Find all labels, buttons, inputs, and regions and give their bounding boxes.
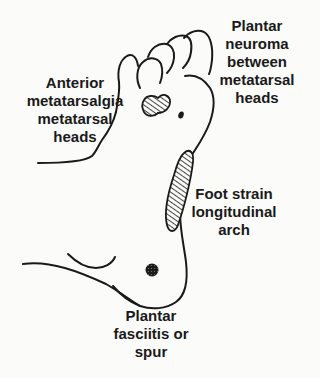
heel-outline bbox=[23, 263, 140, 306]
label-plantar-neuroma: Plantar neuroma between metatarsal heads bbox=[214, 17, 300, 107]
label-plantar-fasciitis: Plantar fasciitis or spur bbox=[108, 307, 194, 361]
heel-spur-spot bbox=[146, 264, 159, 277]
label-foot-strain: Foot strain longitudinal arch bbox=[190, 185, 278, 239]
metatarsal-heads-region bbox=[143, 95, 171, 116]
heel-curve bbox=[68, 254, 115, 268]
neuroma-spot bbox=[177, 111, 184, 120]
label-anterior-metatarsalgia: Anterior metatarsalgia metatarsal heads bbox=[22, 74, 128, 146]
toe-2-outline bbox=[167, 35, 191, 68]
toe-4-outline bbox=[137, 58, 162, 88]
